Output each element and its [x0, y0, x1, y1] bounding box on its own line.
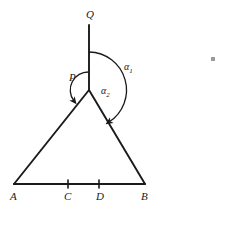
- point-label-b: B: [141, 191, 148, 202]
- geometry-canvas: [0, 0, 226, 226]
- point-label-c: C: [64, 191, 71, 202]
- segment-pb: [89, 90, 145, 184]
- point-label-d: D: [96, 191, 104, 202]
- point-label-a: A: [10, 191, 17, 202]
- point-label-q: Q: [86, 9, 94, 20]
- segment-ap: [14, 90, 89, 184]
- point-label-p: P: [69, 72, 76, 83]
- angle-label-alpha1: α1: [124, 62, 133, 75]
- geometry-figure: Q P A C D B α1 α2: [0, 0, 226, 226]
- angle-label-alpha2-subscript: 2: [106, 91, 110, 99]
- scan-speck-artifact: [211, 57, 215, 61]
- angle-label-alpha2: α2: [101, 86, 110, 99]
- angle-label-alpha1-subscript: 1: [129, 67, 133, 75]
